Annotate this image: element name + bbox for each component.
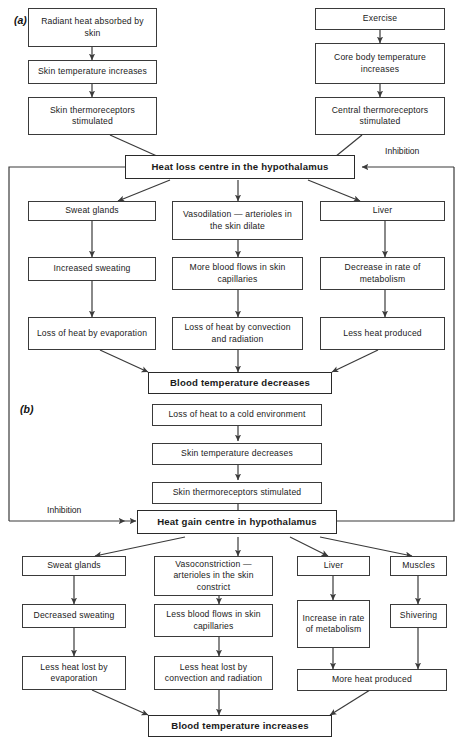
node-less-heat-lost-evaporation: Less heat lost by evaporation [22, 656, 126, 690]
node-liver-b: Liver [297, 556, 370, 576]
node-loss-heat-convection-radiation: Loss of heat by convection and radiation [172, 317, 303, 350]
inhibition-label-bottom: Inhibition [47, 505, 81, 515]
node-core-body-temperature-increases: Core body temperature increases [315, 43, 445, 84]
node-less-heat-lost-convection-radiation: Less heat lost by convection and radiati… [154, 656, 273, 690]
node-sweat-glands-a: Sweat glands [28, 201, 156, 221]
node-skin-thermoreceptors-stimulated-b: Skin thermoreceptors stimulated [152, 482, 322, 504]
node-decreased-sweating: Decreased sweating [22, 604, 126, 628]
node-blood-temperature-increases: Blood temperature increases [148, 715, 332, 737]
node-skin-temperature-decreases: Skin temperature decreases [152, 443, 322, 465]
thermoregulation-flowchart: (a) Radiant heat absorbed by skin Skin t… [0, 0, 463, 749]
node-skin-temperature-increases: Skin temperature increases [28, 60, 157, 84]
node-central-thermoreceptors-stimulated: Central thermoreceptors stimulated [315, 97, 445, 135]
node-less-blood-flows-skin-capillaries: Less blood flows in skin capillaries [154, 604, 273, 637]
node-less-heat-produced: Less heat produced [320, 317, 445, 350]
node-loss-heat-evaporation: Loss of heat by evaporation [28, 317, 156, 350]
node-muscles: Muscles [390, 556, 447, 576]
node-sweat-glands-b: Sweat glands [22, 556, 126, 576]
node-more-heat-produced: More heat produced [297, 669, 447, 691]
node-liver-a: Liver [320, 201, 445, 221]
node-more-blood-flows-skin-capillaries: More blood flows in skin capillaries [172, 257, 303, 290]
node-heat-gain-centre: Heat gain centre in hypothalamus [137, 510, 337, 534]
node-skin-thermoreceptors-stimulated-a: Skin thermoreceptors stimulated [28, 97, 157, 135]
node-shivering: Shivering [390, 604, 447, 628]
panel-b-label: (b) [20, 403, 33, 415]
node-vasodilation: Vasodilation — arterioles in the skin di… [172, 201, 303, 240]
node-exercise: Exercise [315, 8, 445, 30]
node-loss-heat-cold-environment: Loss of heat to a cold environment [152, 404, 322, 426]
inhibition-label-top: Inhibition [385, 146, 419, 156]
panel-a-label: (a) [14, 14, 27, 26]
node-decrease-rate-metabolism: Decrease in rate of metabolism [320, 257, 445, 290]
node-increase-rate-metabolism: Increase in rate of metabolism [297, 600, 370, 648]
node-heat-loss-centre: Heat loss centre in the hypothalamus [125, 155, 355, 179]
node-blood-temperature-decreases: Blood temperature decreases [148, 372, 332, 394]
node-radiant-heat-absorbed: Radiant heat absorbed by skin [28, 8, 157, 47]
node-increased-sweating: Increased sweating [28, 257, 156, 281]
node-vasoconstriction: Vasoconstriction — arterioles in the ski… [154, 556, 273, 596]
